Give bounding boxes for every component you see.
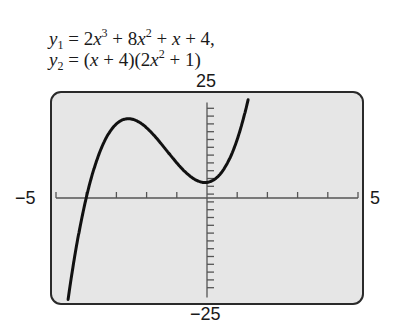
xmax-label: 5 [370, 189, 380, 207]
ymin-label: −25 [190, 305, 221, 322]
xmin-label: −5 [15, 189, 36, 207]
calculator-graph [0, 0, 402, 322]
ymax-label: 25 [196, 72, 216, 90]
